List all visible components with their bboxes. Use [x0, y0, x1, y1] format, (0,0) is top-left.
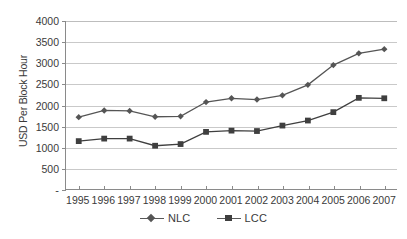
y-tick-mark-4000	[62, 21, 66, 22]
data-point-lcc-2006	[356, 95, 362, 101]
data-point-nlc-2006	[356, 50, 362, 56]
x-tick-mark-1998	[155, 186, 156, 190]
x-tick-mark-2007	[385, 186, 386, 190]
data-point-lcc-1999	[178, 141, 184, 147]
x-tick-mark-1996	[104, 186, 105, 190]
y-tick-mark-1000	[62, 148, 66, 149]
y-tick-label-3500: 3500	[25, 37, 59, 47]
y-tick-mark-0	[62, 190, 66, 191]
chart-screenshot: USD Per Block Hour -50010001500200025003…	[0, 0, 407, 239]
y-tick-mark-1500	[62, 127, 66, 128]
gridline-1000	[66, 148, 397, 149]
data-point-lcc-2002	[254, 128, 260, 134]
gridline-2500	[66, 84, 397, 85]
x-tick-mark-2005	[334, 186, 335, 190]
data-point-nlc-2007	[381, 46, 387, 52]
y-tick-label-500: 500	[25, 164, 59, 174]
x-tick-mark-2004	[309, 186, 310, 190]
data-point-nlc-2003	[279, 92, 285, 98]
x-tick-mark-1999	[181, 186, 182, 190]
legend-label-lcc: LCC	[245, 212, 268, 224]
y-tick-mark-3000	[62, 63, 66, 64]
data-point-lcc-1997	[127, 136, 133, 142]
legend-entry-nlc[interactable]: NLC	[140, 212, 191, 224]
y-tick-label-1500: 1500	[25, 122, 59, 132]
y-tick-mark-2000	[62, 106, 66, 107]
data-point-lcc-2000	[203, 129, 209, 135]
x-tick-mark-2002	[258, 186, 259, 190]
data-point-lcc-2004	[305, 118, 311, 124]
gridline-500	[66, 169, 397, 170]
legend-marker-square-icon	[217, 213, 241, 223]
y-tick-mark-3500	[62, 42, 66, 43]
x-tick-mark-1995	[79, 186, 80, 190]
x-tick-mark-2006	[360, 186, 361, 190]
x-tick-label-2007: 2007	[367, 194, 401, 206]
data-point-nlc-1996	[101, 107, 107, 113]
chart-legend: NLCLCC	[0, 212, 407, 224]
data-point-nlc-2000	[203, 99, 209, 105]
y-tick-label-2500: 2500	[25, 79, 59, 89]
data-point-lcc-2007	[381, 95, 387, 101]
y-tick-label-4000: 4000	[25, 16, 59, 26]
y-tick-mark-500	[62, 169, 66, 170]
legend-label-nlc: NLC	[168, 212, 191, 224]
gridline-2000	[66, 106, 397, 107]
x-tick-mark-1997	[130, 186, 131, 190]
x-tick-mark-2001	[232, 186, 233, 190]
data-point-lcc-2005	[330, 109, 336, 115]
y-tick-label-2000: 2000	[25, 101, 59, 111]
y-tick-label-0: -	[25, 185, 59, 195]
data-point-nlc-1997	[126, 108, 132, 114]
gridline-3500	[66, 42, 397, 43]
x-tick-mark-2003	[283, 186, 284, 190]
gridline-4000	[66, 21, 397, 22]
y-tick-label-3000: 3000	[25, 58, 59, 68]
data-point-lcc-2001	[229, 128, 235, 134]
data-point-lcc-1996	[101, 136, 107, 142]
legend-entry-lcc[interactable]: LCC	[217, 212, 268, 224]
gridline-1500	[66, 127, 397, 128]
legend-diamond-icon	[147, 213, 155, 221]
data-point-nlc-1998	[152, 114, 158, 120]
x-tick-mark-2000	[206, 186, 207, 190]
data-point-lcc-1995	[76, 138, 82, 144]
data-point-nlc-1995	[76, 114, 82, 120]
plot-area	[65, 21, 397, 190]
legend-marker-diamond-icon	[140, 213, 164, 223]
legend-square-icon	[225, 215, 232, 222]
gridline-3000	[66, 63, 397, 64]
data-point-nlc-2001	[228, 95, 234, 101]
data-point-nlc-1999	[177, 113, 183, 119]
data-point-nlc-2002	[254, 96, 260, 102]
y-tick-mark-2500	[62, 84, 66, 85]
series-line-nlc	[79, 49, 385, 117]
y-tick-label-1000: 1000	[25, 143, 59, 153]
